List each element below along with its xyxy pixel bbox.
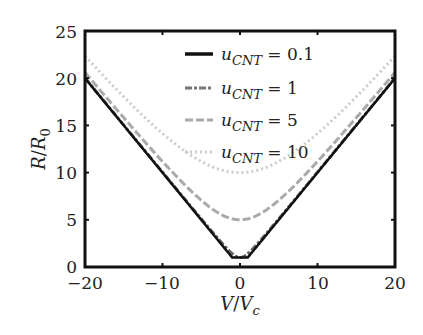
y-tick-15: 15 — [55, 116, 77, 136]
x-tick-0: 0 — [235, 273, 246, 293]
y-tick-5: 5 — [66, 210, 77, 230]
x-tick-neg20: −20 — [67, 273, 103, 293]
legend-label-0.1: uCNT = 0.1 — [221, 44, 314, 68]
x-tick-labels: −20 −10 0 10 20 — [67, 273, 406, 293]
y-tick-10: 10 — [55, 163, 77, 183]
x-tick-20: 20 — [384, 273, 406, 293]
curve-u-1 — [85, 78, 395, 258]
x-axis-label: V/Vc — [220, 293, 260, 318]
x-tick-10: 10 — [307, 273, 329, 293]
chart-canvas: 0 5 10 15 20 25 −20 −10 0 10 20 V/Vc R/R… — [0, 0, 423, 335]
legend-label-1: uCNT = 1 — [221, 78, 298, 102]
legend-label-10: uCNT = 10 — [221, 142, 309, 166]
y-tick-labels: 0 5 10 15 20 25 — [55, 22, 77, 277]
curve-u-0.1 — [85, 78, 395, 257]
legend: uCNT = 0.1 uCNT = 1 uCNT = 5 uCNT = 10 — [185, 44, 314, 166]
y-tick-20: 20 — [55, 69, 77, 89]
y-tick-25: 25 — [55, 22, 77, 42]
x-tick-neg10: −10 — [144, 273, 180, 293]
legend-label-5: uCNT = 5 — [221, 110, 298, 134]
y-axis-label: R/R0 — [28, 128, 53, 170]
